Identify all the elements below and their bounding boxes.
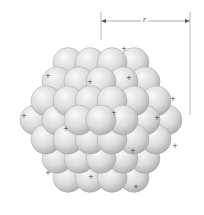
proton-plus-icon: + xyxy=(87,78,93,86)
proton-plus-icon: + xyxy=(45,72,51,80)
proton-plus-icon: + xyxy=(170,95,176,103)
arrow-right-icon xyxy=(185,19,190,23)
proton-plus-icon: + xyxy=(121,45,127,53)
arrow-left-icon xyxy=(101,19,106,23)
radius-label: r xyxy=(141,16,148,24)
proton-plus-icon: + xyxy=(154,114,160,122)
proton-plus-icon: + xyxy=(21,112,27,120)
proton-plus-icon: + xyxy=(133,183,139,191)
proton-plus-icon: + xyxy=(45,169,51,177)
nucleus-diagram: ++++++++++++++ xyxy=(0,0,204,215)
proton-plus-icon: + xyxy=(172,142,178,150)
proton-plus-icon: + xyxy=(126,74,132,82)
proton-plus-icon: + xyxy=(130,147,136,155)
proton-plus-icon: + xyxy=(111,109,117,117)
proton-plus-icon: + xyxy=(63,125,69,133)
proton-plus-icon: + xyxy=(88,173,94,181)
